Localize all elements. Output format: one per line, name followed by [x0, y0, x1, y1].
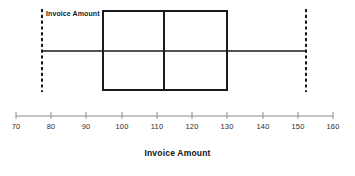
x-tick-label-70: 70: [1, 122, 31, 131]
x-tick-label-130: 130: [212, 122, 242, 131]
x-tick-label-90: 90: [71, 122, 101, 131]
x-tick-label-140: 140: [248, 122, 278, 131]
x-tick-label-100: 100: [107, 122, 137, 131]
x-tick-label-80: 80: [36, 122, 66, 131]
series-label: Invoice Amount: [46, 9, 100, 18]
x-tick-label-120: 120: [177, 122, 207, 131]
x-tick-label-150: 150: [283, 122, 313, 131]
x-tick-label-160: 160: [318, 122, 348, 131]
box-plot-chart: Invoice Amount 70 80 90 100 110 120 130 …: [0, 0, 355, 176]
x-axis-title: Invoice Amount: [0, 148, 355, 158]
x-tick-label-110: 110: [142, 122, 172, 131]
